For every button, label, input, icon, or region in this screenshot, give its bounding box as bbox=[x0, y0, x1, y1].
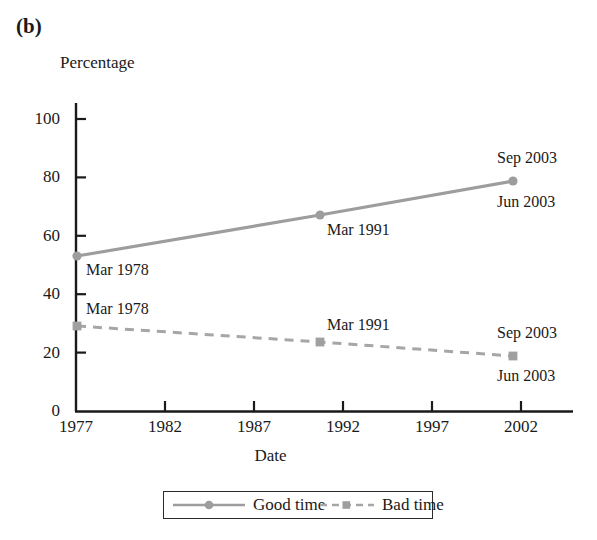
legend-label-bad-time: Bad time bbox=[382, 495, 444, 515]
annotation-bad-mar-1991: Mar 1991 bbox=[327, 317, 390, 333]
x-axis-ticks bbox=[165, 401, 521, 412]
good-time-marker-mar-1991 bbox=[315, 210, 324, 219]
series-bad-time bbox=[73, 322, 518, 361]
y-tick-label-20: 20 bbox=[18, 344, 60, 361]
y-tick-label-60: 60 bbox=[18, 227, 60, 244]
x-tick-label-1987: 1987 bbox=[224, 418, 284, 435]
legend-label-good-time: Good time bbox=[253, 495, 325, 515]
x-axis-title-text: Date bbox=[254, 446, 286, 465]
y-tick-label-0: 0 bbox=[18, 402, 60, 419]
bad-time-marker-2003 bbox=[509, 352, 518, 361]
x-tick-label-1992: 1992 bbox=[313, 418, 373, 435]
annotation-good-sep-2003: Sep 2003 bbox=[497, 150, 557, 166]
annotation-bad-jun-2003: Jun 2003 bbox=[497, 368, 555, 384]
y-tick-label-80: 80 bbox=[18, 168, 60, 185]
legend-sample-dashed-square bbox=[319, 498, 375, 512]
legend-item-bad-time[interactable]: Bad time bbox=[319, 492, 444, 518]
bad-time-line bbox=[77, 326, 513, 356]
figure-panel-b: (b) Percentage bbox=[0, 0, 597, 540]
bad-time-marker-mar-1978 bbox=[73, 322, 82, 331]
y-tick-label-100: 100 bbox=[18, 110, 60, 127]
x-tick-label-2002: 2002 bbox=[491, 418, 551, 435]
x-tick-label-1997: 1997 bbox=[402, 418, 462, 435]
chart-legend: Good time Bad time bbox=[163, 491, 433, 519]
legend-item-good-time[interactable]: Good time bbox=[172, 492, 325, 518]
y-axis-ticks bbox=[76, 119, 86, 353]
annotation-good-mar-1991: Mar 1991 bbox=[327, 222, 390, 238]
bad-time-marker-mar-1991 bbox=[316, 338, 325, 347]
series-good-time bbox=[72, 176, 517, 260]
y-tick-label-40: 40 bbox=[18, 285, 60, 302]
annotation-bad-sep-2003: Sep 2003 bbox=[497, 325, 557, 341]
x-tick-label-1982: 1982 bbox=[135, 418, 195, 435]
annotation-good-jun-2003: Jun 2003 bbox=[497, 194, 555, 210]
legend-sample-solid-circle bbox=[172, 498, 246, 512]
x-tick-label-1977: 1977 bbox=[46, 418, 106, 435]
annotation-bad-mar-1978: Mar 1978 bbox=[86, 301, 149, 317]
x-axis-title: Date bbox=[0, 446, 597, 466]
annotation-good-mar-1978: Mar 1978 bbox=[86, 262, 149, 278]
good-time-marker-2003 bbox=[508, 176, 517, 185]
good-time-marker-mar-1978 bbox=[72, 251, 81, 260]
good-time-line bbox=[77, 181, 513, 256]
